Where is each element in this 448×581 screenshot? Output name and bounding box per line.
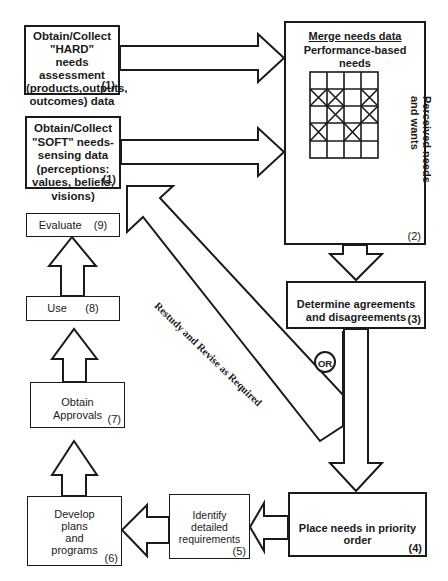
box-determine-agreements: Determine agreements and disagreements (… xyxy=(286,281,426,329)
box-use: Use (8) xyxy=(26,296,120,321)
arrow-develop-to-approvals xyxy=(52,441,97,496)
needs-matrix-grid xyxy=(309,71,381,161)
box-collect-hard-data: Obtain/Collect "HARD" needs assessment (… xyxy=(24,25,120,95)
step-number: (2) xyxy=(408,230,421,242)
step-number: (7) xyxy=(108,413,121,426)
arrow-hard-to-merge xyxy=(120,34,284,82)
arrow-merge-to-agree xyxy=(330,245,382,280)
arrow-use-to-evaluate xyxy=(49,237,96,296)
box-label: Obtain/Collect "SOFT" needs- sensing dat… xyxy=(27,122,119,203)
merge-title: Merge needs data xyxy=(286,30,424,42)
box-label: Determine agreements and disagreements xyxy=(288,298,424,324)
step-number: (5) xyxy=(233,545,246,557)
step-number: (3) xyxy=(408,313,421,326)
step-number: (4) xyxy=(409,542,422,554)
box-identify-requirements: Identify detailed requirements (5) xyxy=(169,494,250,559)
step-number: (1) xyxy=(102,79,115,92)
box-label: Develop plans and programs xyxy=(28,508,121,556)
box-obtain-approvals: Obtain Approvals (7) xyxy=(30,382,125,428)
box-label: Evaluate (9) xyxy=(27,219,119,231)
box-label: Place needs in priority order xyxy=(290,522,425,546)
box-merge-needs: Merge needs data Performance-based needs… xyxy=(284,21,426,245)
box-label: Obtain/Collect "HARD" needs assessment (… xyxy=(26,30,118,108)
box-develop-plans: Develop plans and programs (6) xyxy=(27,496,122,566)
box-label: Identify detailed requirements xyxy=(170,509,249,545)
or-badge: OR xyxy=(314,351,336,373)
box-collect-soft-data: Obtain/Collect "SOFT" needs- sensing dat… xyxy=(25,116,121,189)
arrow-priority-to-requirements xyxy=(250,503,288,551)
arrow-soft-to-merge xyxy=(121,128,284,176)
arrow-requirements-to-develop xyxy=(122,505,169,556)
step-number: (1) xyxy=(103,173,116,187)
performance-needs-label: Performance-based needs xyxy=(286,44,424,70)
box-priority-order: Place needs in priority order (4) xyxy=(288,492,427,557)
box-label: Use (8) xyxy=(27,302,119,314)
box-evaluate: Evaluate (9) xyxy=(26,213,120,237)
perceived-needs-label: Perceived needs and wants xyxy=(409,96,433,183)
arrow-approvals-to-use xyxy=(52,329,97,382)
step-number: (6) xyxy=(105,552,118,564)
